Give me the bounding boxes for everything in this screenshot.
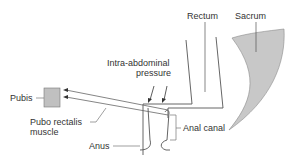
rectum-right-wall (168, 37, 223, 118)
muscle-label-2: muscle (30, 127, 59, 137)
pubis-label: Pubis (10, 93, 33, 103)
pressure-label-2: pressure (136, 68, 171, 78)
pressure-label-1: Intra-abdominal (107, 58, 170, 68)
pressure-arrow-1 (150, 86, 154, 100)
sacrum-label: Sacrum (235, 11, 266, 21)
pubis-bone (44, 88, 60, 107)
rectum-label: Rectum (187, 11, 218, 21)
anus-label: Anus (89, 141, 110, 151)
anal-canal-bracket (170, 115, 176, 140)
muscle-label-1: Pubo rectalis (30, 117, 82, 127)
anal-canal-left (140, 108, 151, 150)
muscle-leader (90, 108, 106, 122)
pressure-arrow-2 (164, 86, 167, 100)
anal-canal-label: Anal canal (183, 123, 225, 133)
anal-canal-right (161, 110, 170, 150)
sacrum-bone (229, 29, 284, 130)
